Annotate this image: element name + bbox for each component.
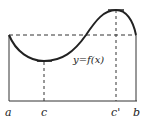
label-a: a bbox=[5, 106, 12, 119]
rolle-diagram: y=f(x) a c c' b bbox=[0, 0, 148, 123]
label-c: c bbox=[41, 106, 47, 119]
function-label: y=f(x) bbox=[72, 54, 104, 65]
label-c-prime: c' bbox=[111, 106, 120, 119]
label-b: b bbox=[133, 106, 140, 119]
